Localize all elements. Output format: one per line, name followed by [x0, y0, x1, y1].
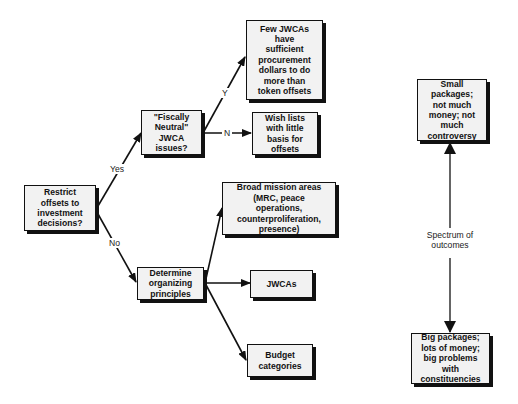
node-few-jwcas: Few JWCAs have sufficient procurement do… [246, 20, 323, 100]
edge-label-no: No [108, 238, 121, 248]
node-restrict-offsets: Restrict offsets to investment decisions… [24, 185, 96, 231]
edge-label-y: Y [221, 88, 229, 98]
node-small-packages: Small packages; not much money; not much… [417, 79, 487, 141]
node-broad-mission-areas: Broad mission areas (MRC, peace operatio… [222, 182, 336, 235]
node-jwcas: JWCAs [250, 270, 313, 298]
edge-label-n: N [222, 128, 232, 138]
decision-diagram: Restrict offsets to investment decisions… [0, 0, 518, 404]
node-big-packages: Big packages; lots of money; big problem… [411, 333, 490, 384]
node-fiscally-neutral: "Fiscally Neutral" JWCA issues? [141, 110, 202, 155]
node-determine-principles: Determine organizing principles [137, 267, 204, 300]
edge-broad-arrow [205, 208, 222, 283]
edge-label-yes: Yes [109, 164, 125, 174]
spectrum-label: Spectrum of outcomes [422, 230, 478, 250]
edge-no-arrow [98, 214, 136, 282]
edge-budget-arrow [205, 283, 246, 360]
node-wish-lists: Wish lists with little basis for offsets [252, 112, 318, 155]
node-budget-categories: Budget categories [247, 344, 313, 377]
